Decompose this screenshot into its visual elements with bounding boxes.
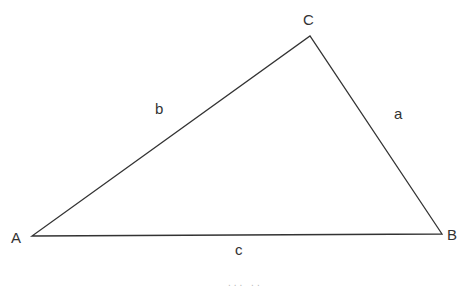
side-label-a: a (394, 106, 402, 121)
vertex-label-c: C (303, 12, 314, 27)
vertex-label-b: B (447, 227, 457, 242)
vertex-label-a: A (11, 230, 21, 245)
side-label-c: c (235, 242, 243, 257)
triangle-abc (32, 36, 442, 236)
side-label-b: b (155, 101, 163, 116)
partial-caption: ... .. (228, 277, 263, 288)
